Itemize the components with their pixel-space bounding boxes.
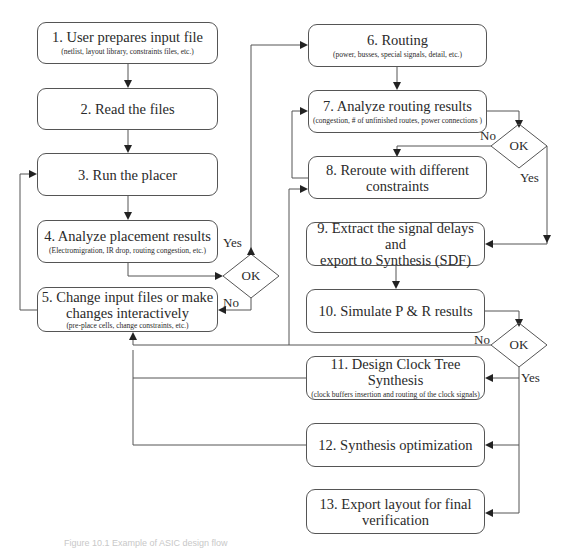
step-13-title-line2: verification (362, 512, 429, 528)
step-3-box: 3. Run the placer (37, 153, 218, 196)
step-4-box: 4. Analyze placement results (Electromig… (37, 220, 218, 263)
decision-3-yes-label: Yes (521, 371, 540, 385)
step-12-title: 12. Synthesis optimization (318, 437, 472, 453)
step-7-box: 7. Analyze routing results (congestion, … (308, 90, 487, 133)
step-2-title: 2. Read the files (80, 101, 174, 117)
step-5-title-line2: changes interactively (66, 305, 189, 321)
step-1-box: 1. User prepares input file (netlist, la… (37, 22, 218, 64)
step-8-title-line1: 8. Reroute with different (326, 162, 469, 178)
connector-lines (0, 0, 567, 551)
decision-2-no-label: No (480, 129, 496, 143)
step-7-detail: (congestion, # of unfinished routes, pow… (313, 116, 482, 126)
step-6-detail: (power, busses, special signals, detail,… (333, 50, 462, 60)
step-5-box: 5. Change input files or make changes in… (37, 287, 218, 332)
step-1-detail: (netlist, layout library, constraints fi… (61, 47, 194, 57)
decision-1-yes-label: Yes (223, 236, 242, 250)
step-6-title: 6. Routing (367, 32, 428, 48)
step-11-detail: (clock buffers insertion and routing of … (311, 390, 480, 400)
figure-caption: Figure 10.1 Example of ASIC design flow (64, 538, 228, 548)
decision-1-label: OK (231, 269, 271, 283)
step-3-title: 3. Run the placer (78, 167, 177, 183)
step-2-box: 2. Read the files (37, 88, 218, 130)
step-11-box: 11. Design Clock Tree Synthesis (clock b… (306, 356, 485, 400)
decision-3-label: OK (499, 338, 539, 352)
step-10-title: 10. Simulate P & R results (318, 303, 472, 319)
decision-3-no-label: No (474, 333, 490, 347)
decision-2-yes-label: Yes (520, 171, 539, 185)
step-8-box: 8. Reroute with different constraints (308, 156, 487, 199)
decision-2-label: OK (499, 139, 539, 153)
step-5-detail: (pre-place cells, change constraints, et… (66, 321, 188, 331)
step-4-detail: (Electromigration, IR drop, routing cong… (49, 246, 206, 256)
step-1-title: 1. User prepares input file (52, 29, 203, 45)
step-7-title: 7. Analyze routing results (323, 98, 472, 114)
step-13-title-line1: 13. Export layout for final (320, 496, 472, 512)
step-5-title-line1: 5. Change input files or make (42, 289, 214, 305)
step-6-box: 6. Routing (power, busses, special signa… (308, 24, 487, 67)
step-4-title: 4. Analyze placement results (44, 228, 211, 244)
step-9-box: 9. Extract the signal delays and export … (306, 222, 485, 266)
step-12-box: 12. Synthesis optimization (306, 423, 485, 467)
step-9-title-line1: 9. Extract the signal delays and (307, 220, 484, 252)
step-11-title: 11. Design Clock Tree Synthesis (307, 356, 484, 388)
step-10-box: 10. Simulate P & R results (306, 289, 485, 333)
step-13-box: 13. Export layout for final verification (306, 489, 485, 534)
step-8-title-line2: constraints (366, 178, 429, 194)
step-9-title-line2: export to Synthesis (SDF) (320, 252, 471, 268)
flowchart-canvas: 1. User prepares input file (netlist, la… (0, 0, 567, 551)
decision-1-no-label: No (223, 296, 239, 310)
